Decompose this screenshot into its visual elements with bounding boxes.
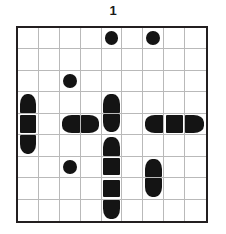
grid-cell-r2c1[interactable] [39, 71, 60, 92]
grid-cell-r3c4[interactable] [102, 92, 123, 113]
grid-cell-r5c3[interactable] [81, 135, 102, 156]
grid-cell-r2c7[interactable] [164, 71, 185, 92]
grid-cell-r4c5[interactable] [122, 114, 143, 135]
grid-cell-r2c2[interactable] [60, 71, 81, 92]
grid-cell-r3c1[interactable] [39, 92, 60, 113]
grid-cell-r8c0[interactable] [18, 200, 39, 221]
grid-cell-r0c8[interactable] [185, 28, 206, 49]
ship-vertical3-top-r3c0 [20, 94, 37, 112]
grid-cell-r0c0[interactable] [18, 28, 39, 49]
grid-cell-r1c5[interactable] [122, 49, 143, 70]
grid-cell-r4c1[interactable] [39, 114, 60, 135]
grid-cell-r7c4[interactable] [102, 178, 123, 199]
grid-cell-r8c8[interactable] [185, 200, 206, 221]
ship-vertical4-bottom-r8c4 [103, 200, 120, 219]
grid-cell-r4c4[interactable] [102, 114, 123, 135]
grid-cell-r4c6[interactable] [143, 114, 164, 135]
grid-cell-r0c7[interactable] [164, 28, 185, 49]
grid-cell-r3c7[interactable] [164, 92, 185, 113]
grid-cell-r5c4[interactable] [102, 135, 123, 156]
grid-cell-r7c1[interactable] [39, 178, 60, 199]
grid-cell-r7c8[interactable] [185, 178, 206, 199]
grid-cell-r8c2[interactable] [60, 200, 81, 221]
ship-single-r0c6 [146, 31, 160, 45]
grid-cell-r7c6[interactable] [143, 178, 164, 199]
ship-vertical3-bottom-r5c0 [20, 135, 37, 153]
grid-cell-r1c2[interactable] [60, 49, 81, 70]
grid-cell-r4c2[interactable] [60, 114, 81, 135]
grid-cell-r8c7[interactable] [164, 200, 185, 221]
ship-single-r6c2 [63, 160, 77, 174]
grid-cell-r0c4[interactable] [102, 28, 123, 49]
grid-cell-r3c0[interactable] [18, 92, 39, 113]
grid-cell-r1c1[interactable] [39, 49, 60, 70]
ship-vertical4-top-r5c4 [103, 137, 120, 155]
grid-cell-r8c6[interactable] [143, 200, 164, 221]
grid-cell-r5c2[interactable] [60, 135, 81, 156]
grid-cell-r4c8[interactable] [185, 114, 206, 135]
puzzle-container: 1 [0, 0, 226, 234]
grid-cell-r0c1[interactable] [39, 28, 60, 49]
grid-cell-r7c0[interactable] [18, 178, 39, 199]
grid-cell-r6c7[interactable] [164, 157, 185, 178]
grid-cell-r2c4[interactable] [102, 71, 123, 92]
grid-cell-r7c5[interactable] [122, 178, 143, 199]
grid-cell-r3c6[interactable] [143, 92, 164, 113]
grid-cell-r6c6[interactable] [143, 157, 164, 178]
grid-cell-r2c5[interactable] [122, 71, 143, 92]
grid-cell-r6c3[interactable] [81, 157, 102, 178]
grid-cell-r2c8[interactable] [185, 71, 206, 92]
grid-cell-r6c0[interactable] [18, 157, 39, 178]
grid-cell-r5c0[interactable] [18, 135, 39, 156]
grid-cell-r6c2[interactable] [60, 157, 81, 178]
grid-cell-r8c3[interactable] [81, 200, 102, 221]
grid-cell-r3c2[interactable] [60, 92, 81, 113]
grid-cell-r4c0[interactable] [18, 114, 39, 135]
grid-cell-r7c7[interactable] [164, 178, 185, 199]
grid-cell-r7c3[interactable] [81, 178, 102, 199]
grid-cell-r6c8[interactable] [185, 157, 206, 178]
ship-vertical4-middle-r6c4 [103, 158, 120, 175]
grid-cell-r6c1[interactable] [39, 157, 60, 178]
grid-cell-r0c6[interactable] [143, 28, 164, 49]
grid-cell-r3c8[interactable] [185, 92, 206, 113]
grid-cells[interactable] [18, 28, 206, 221]
grid-cell-r0c3[interactable] [81, 28, 102, 49]
grid-cell-r1c7[interactable] [164, 49, 185, 70]
grid-cell-r1c3[interactable] [81, 49, 102, 70]
ship-vertical3-middle-r4c0 [20, 115, 37, 132]
ship-horizontal3-middle-r4c7 [166, 115, 183, 132]
puzzle-grid[interactable] [16, 26, 208, 223]
grid-cell-r1c6[interactable] [143, 49, 164, 70]
grid-cell-r5c1[interactable] [39, 135, 60, 156]
grid-cell-r4c3[interactable] [81, 114, 102, 135]
grid-cell-r8c4[interactable] [102, 200, 123, 221]
ship-vertical4-middle-r7c4 [103, 180, 120, 197]
page-title: 1 [0, 4, 226, 18]
grid-cell-r5c8[interactable] [185, 135, 206, 156]
ship-horizontal2-right-r4c3 [81, 115, 99, 132]
ship-vertical2-bottom-r4c4 [103, 114, 120, 132]
grid-cell-r0c5[interactable] [122, 28, 143, 49]
ship-single-r0c4 [105, 31, 119, 45]
grid-cell-r4c7[interactable] [164, 114, 185, 135]
grid-cell-r6c4[interactable] [102, 157, 123, 178]
ship-vertical2-bottom-r7c6 [145, 178, 162, 196]
grid-cell-r3c5[interactable] [122, 92, 143, 113]
grid-cell-r2c0[interactable] [18, 71, 39, 92]
grid-cell-r1c8[interactable] [185, 49, 206, 70]
grid-cell-r1c4[interactable] [102, 49, 123, 70]
grid-cell-r8c1[interactable] [39, 200, 60, 221]
grid-cell-r0c2[interactable] [60, 28, 81, 49]
grid-cell-r5c7[interactable] [164, 135, 185, 156]
grid-cell-r3c3[interactable] [81, 92, 102, 113]
grid-cell-r2c3[interactable] [81, 71, 102, 92]
grid-cell-r7c2[interactable] [60, 178, 81, 199]
grid-cell-r5c6[interactable] [143, 135, 164, 156]
grid-cell-r2c6[interactable] [143, 71, 164, 92]
grid-cell-r1c0[interactable] [18, 49, 39, 70]
grid-cell-r5c5[interactable] [122, 135, 143, 156]
grid-cell-r6c5[interactable] [122, 157, 143, 178]
ship-vertical2-top-r6c6 [145, 159, 162, 177]
grid-cell-r8c5[interactable] [122, 200, 143, 221]
